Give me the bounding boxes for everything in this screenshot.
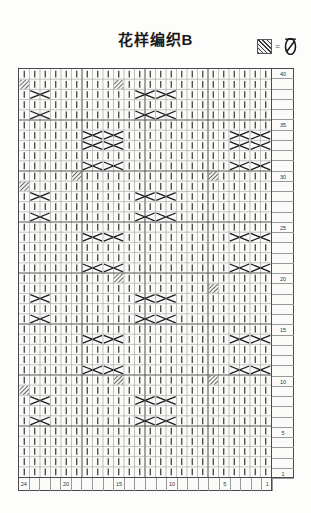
column-number-blank: . [199, 478, 210, 491]
row-number: 30 [272, 172, 294, 182]
row-number-blank: . [272, 336, 294, 346]
row-number-blank: . [272, 90, 294, 100]
row-number-blank: . [272, 151, 294, 161]
row-number-blank: . [272, 161, 294, 171]
column-number-blank: . [252, 478, 263, 491]
column-number-blank: . [30, 478, 41, 491]
row-number: 40 [272, 69, 294, 79]
column-number-blank: . [178, 478, 189, 491]
column-number: 15 [114, 478, 125, 491]
row-number-blank: . [272, 110, 294, 120]
row-number-blank: . [272, 264, 294, 274]
column-number: 24 [19, 478, 30, 491]
row-number-blank: . [272, 284, 294, 294]
column-number-blank: . [146, 478, 157, 491]
column-number-blank: . [51, 478, 62, 491]
row-number: 35 [272, 120, 294, 130]
column-number-gutter: 24...20....15....10....5...1 [18, 478, 272, 491]
column-number-blank: . [157, 478, 168, 491]
column-number-blank: . [135, 478, 146, 491]
column-number: 5 [220, 478, 231, 491]
column-number-blank: . [93, 478, 104, 491]
column-number: 10 [167, 478, 178, 491]
legend: = [257, 38, 298, 55]
row-number-blank: . [272, 141, 294, 151]
column-number-blank: . [72, 478, 83, 491]
row-number: 1 [272, 469, 294, 479]
row-number-blank: . [272, 233, 294, 243]
row-number-blank: . [272, 397, 294, 407]
knitting-chart-page: 花样编织B = 40....35....30....25....20....15… [0, 0, 311, 513]
twisted-stitch-symbol [283, 38, 298, 55]
column-number-blank: . [83, 478, 94, 491]
row-number-blank: . [272, 192, 294, 202]
column-number-blank: . [188, 478, 199, 491]
row-number-blank: . [272, 459, 294, 469]
row-number-blank: . [272, 346, 294, 356]
row-number-blank: . [272, 448, 294, 458]
row-number-blank: . [272, 407, 294, 417]
row-number-blank: . [272, 202, 294, 212]
row-number-blank: . [272, 305, 294, 315]
row-number-blank: . [272, 356, 294, 366]
column-number-blank: . [40, 478, 51, 491]
pattern-grid-svg [19, 69, 271, 477]
hatched-cell-swatch [257, 39, 272, 54]
column-number-blank: . [125, 478, 136, 491]
row-number-blank: . [272, 79, 294, 89]
row-number-blank: . [272, 418, 294, 428]
row-number: 5 [272, 428, 294, 438]
row-number-blank: . [272, 243, 294, 253]
row-number: 10 [272, 377, 294, 387]
row-number: 15 [272, 325, 294, 335]
row-number: 25 [272, 223, 294, 233]
row-number-blank: . [272, 254, 294, 264]
column-number-blank: . [104, 478, 115, 491]
row-number-blank: . [272, 131, 294, 141]
column-number: 1 [262, 478, 273, 491]
row-number-blank: . [272, 387, 294, 397]
row-number-blank: . [272, 438, 294, 448]
row-number-blank: . [272, 295, 294, 305]
column-number-blank: . [231, 478, 242, 491]
row-number-blank: . [272, 100, 294, 110]
row-number-gutter: 40....35....30....25....20....15....10..… [272, 68, 294, 478]
row-number-blank: . [272, 366, 294, 376]
column-number-blank: . [241, 478, 252, 491]
column-number: 20 [61, 478, 72, 491]
pattern-grid [18, 68, 272, 478]
column-number-blank: . [210, 478, 221, 491]
row-number-blank: . [272, 315, 294, 325]
row-number-blank: . [272, 182, 294, 192]
row-number-blank: . [272, 213, 294, 223]
row-number: 20 [272, 274, 294, 284]
legend-equals: = [275, 43, 280, 51]
